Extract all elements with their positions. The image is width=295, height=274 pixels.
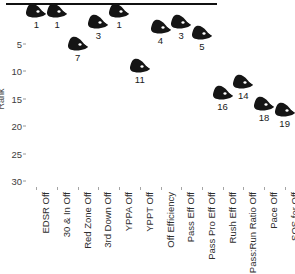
data-point[interactable]: 18 xyxy=(253,96,275,118)
chart-container: 2019 Offensive Advanced Metrics Rank 510… xyxy=(0,0,295,274)
data-point-value: 3 xyxy=(96,30,101,41)
y-axis-label: Rank xyxy=(0,88,6,109)
y-axis-tick-label: 5 xyxy=(17,38,22,49)
x-axis-tick-label: 3rd Down Off xyxy=(102,192,113,248)
team-logo-icon xyxy=(67,36,88,52)
team-logo-icon xyxy=(88,14,109,30)
data-point[interactable]: 19 xyxy=(274,102,295,124)
data-point[interactable]: 7 xyxy=(67,36,89,58)
x-axis-tick-mark xyxy=(36,187,37,190)
x-axis-tick-label: Pass Eff Off xyxy=(185,192,196,242)
y-axis-tick-label: 20 xyxy=(11,121,22,132)
data-point[interactable]: 4 xyxy=(150,19,172,41)
data-point[interactable]: 14 xyxy=(232,74,254,96)
x-axis-tick-mark xyxy=(119,187,120,190)
team-logo-icon xyxy=(274,102,295,118)
x-axis-tick-label: 30 & In Off xyxy=(61,192,72,237)
plot-area: 117311143516141819 xyxy=(26,8,295,190)
x-axis-tick-mark xyxy=(78,187,79,190)
x-axis-tick-mark xyxy=(285,187,286,190)
y-axis-tick-label: 15 xyxy=(11,93,22,104)
data-point-value: 3 xyxy=(179,30,184,41)
team-logo-icon xyxy=(47,3,68,19)
team-logo-icon xyxy=(150,19,171,35)
data-point-value: 18 xyxy=(259,112,270,123)
data-point-value: 11 xyxy=(135,74,145,85)
team-logo-icon xyxy=(171,14,192,30)
x-axis-tick-mark xyxy=(223,187,224,190)
team-logo-icon xyxy=(233,74,254,90)
x-axis-tick-mark xyxy=(161,187,162,190)
data-point-value: 1 xyxy=(116,19,121,30)
data-point[interactable]: 3 xyxy=(87,14,109,36)
data-point[interactable]: 1 xyxy=(108,3,130,25)
x-axis-tick-mark xyxy=(202,187,203,190)
x-axis-tick-mark xyxy=(98,187,99,190)
x-axis-tick-label: Pass Pro Eff Off xyxy=(206,192,217,260)
x-axis-tick-label: Rush Eff Off xyxy=(227,192,238,243)
data-point[interactable]: 5 xyxy=(191,25,213,47)
data-point-value: 4 xyxy=(158,35,163,46)
team-logo-icon xyxy=(191,25,212,41)
data-point-value: 7 xyxy=(75,52,80,63)
data-point[interactable]: 1 xyxy=(25,3,47,25)
x-axis-tick-label: Off Efficiency xyxy=(165,192,176,248)
y-axis-tick-label: 25 xyxy=(11,148,22,159)
x-axis-tick-mark xyxy=(264,187,265,190)
x-axis-tick-mark xyxy=(243,187,244,190)
data-point-value: 16 xyxy=(217,101,228,112)
data-point[interactable]: 1 xyxy=(46,3,68,25)
x-axis-tick-label: Pass:Run Ratio Off xyxy=(247,192,258,273)
x-axis-tick-label: SOS for Off xyxy=(289,192,295,241)
x-axis-tick-mark xyxy=(57,187,58,190)
data-point-value: 1 xyxy=(54,19,59,30)
data-point-value: 1 xyxy=(34,19,39,30)
team-logo-icon xyxy=(212,85,233,101)
y-axis-tick-label: 30 xyxy=(11,176,22,187)
x-axis-tick-label: EDSR Off xyxy=(40,192,51,234)
x-axis-tick-mark xyxy=(181,187,182,190)
data-point[interactable]: 11 xyxy=(129,58,151,80)
team-logo-icon xyxy=(129,58,150,74)
y-axis: Rank 51015202530 xyxy=(0,8,26,190)
data-point[interactable]: 3 xyxy=(170,14,192,36)
y-axis-tick-label: 10 xyxy=(11,66,22,77)
team-logo-icon xyxy=(26,3,47,19)
x-axis-tick-label: Pace Off xyxy=(268,192,279,229)
data-point-value: 14 xyxy=(238,90,249,101)
x-axis-tick-mark xyxy=(140,187,141,190)
x-axis-tick-label: YPPT Off xyxy=(144,192,155,232)
data-point-value: 19 xyxy=(279,118,290,129)
x-axis: EDSR Off30 & In OffRed Zone Off3rd Down … xyxy=(26,190,295,274)
data-point[interactable]: 16 xyxy=(212,85,234,107)
x-axis-tick-label: YPPA Off xyxy=(123,192,134,231)
team-logo-icon xyxy=(253,96,274,112)
x-axis-tick-label: Red Zone Off xyxy=(82,192,93,249)
team-logo-icon xyxy=(109,3,130,19)
data-point-value: 5 xyxy=(199,41,204,52)
